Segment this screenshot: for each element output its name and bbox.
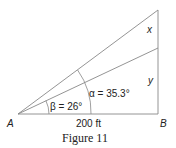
label-alpha: α = 35.3° xyxy=(89,88,130,99)
point-a-label: A xyxy=(6,118,14,129)
label-x: x xyxy=(146,24,153,35)
hypotenuse-alpha xyxy=(18,10,158,114)
label-y: y xyxy=(147,75,154,86)
hypotenuse-beta xyxy=(18,48,158,114)
label-beta: β = 26° xyxy=(50,101,82,112)
triangle-diagram: x y α = 35.3° β = 26° 200 ft A B Figure … xyxy=(0,0,176,148)
figure-caption: Figure 11 xyxy=(62,131,108,145)
beta-arc xyxy=(46,101,49,114)
point-b-label: B xyxy=(160,118,167,129)
label-base: 200 ft xyxy=(76,118,101,129)
